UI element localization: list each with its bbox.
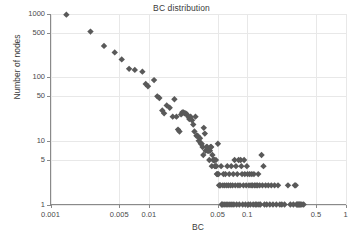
- plot-area: [0, 0, 363, 237]
- data-point-marker: [171, 96, 177, 102]
- x-axis-title: BC: [50, 222, 346, 232]
- data-point-marker: [258, 152, 264, 158]
- axis-lines: [51, 14, 346, 205]
- y-tick-label: 1: [6, 200, 45, 209]
- data-point-marker: [293, 182, 299, 188]
- data-point-marker: [101, 43, 107, 49]
- data-point-marker: [201, 125, 207, 131]
- x-tick-label: 1: [326, 210, 363, 219]
- tick-marks: [47, 15, 347, 209]
- data-point-marker: [255, 171, 261, 177]
- data-point-marker: [244, 163, 250, 169]
- data-point-marker: [139, 68, 145, 74]
- data-point-group: [63, 11, 307, 207]
- data-point-marker: [275, 182, 281, 188]
- y-tick-label: 5: [6, 155, 45, 164]
- data-point-marker: [202, 130, 208, 136]
- data-point-marker: [112, 49, 118, 55]
- data-point-marker: [63, 11, 69, 17]
- bc-distribution-chart: BC distribution 1510501005001000 0.0010.…: [0, 0, 363, 237]
- x-tick-label: 0.01: [129, 210, 169, 219]
- data-point-marker: [260, 163, 266, 169]
- data-point-marker: [238, 163, 244, 169]
- gridlines: [51, 14, 347, 206]
- data-point-marker: [285, 182, 291, 188]
- data-point-marker: [126, 66, 132, 72]
- data-point-marker: [132, 67, 138, 73]
- x-tick-label: 0.001: [31, 210, 71, 219]
- y-axis-title: Number of nodes: [12, 12, 22, 122]
- x-tick-label: 0.1: [227, 210, 267, 219]
- data-point-marker: [241, 157, 247, 163]
- y-tick-label: 10: [6, 136, 45, 145]
